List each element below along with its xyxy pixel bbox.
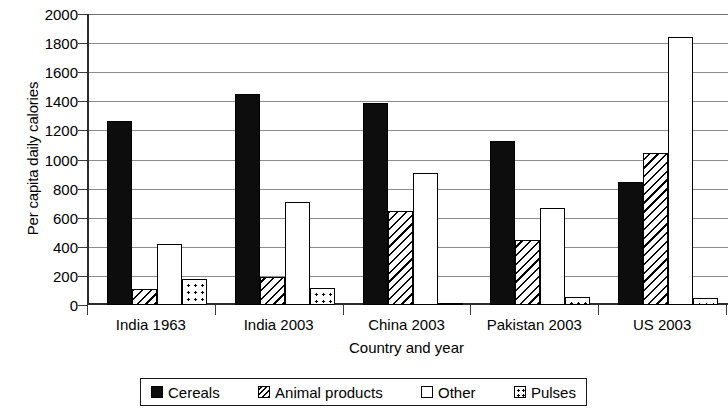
y-axis-tick-mark <box>78 247 87 248</box>
x-axis-tick-label: China 2003 <box>368 316 445 333</box>
bar-animal-products <box>260 277 285 305</box>
legend-label: Pulses <box>531 384 576 401</box>
y-axis-tick-mark <box>78 305 87 306</box>
y-axis-tick-label: 1800 <box>22 36 78 51</box>
y-axis-tick-label: 800 <box>22 181 78 196</box>
legend-label: Animal products <box>275 384 383 401</box>
y-axis-tick-mark <box>78 101 87 102</box>
y-axis-tick-mark <box>78 276 87 277</box>
bar-group <box>600 14 728 305</box>
x-axis-tick-mark <box>87 305 88 315</box>
bar-other <box>413 173 438 305</box>
bar-group <box>89 14 217 305</box>
y-axis-tick-label: 0 <box>22 298 78 313</box>
bar-animal-products <box>515 240 540 305</box>
bar-group <box>345 14 473 305</box>
legend-item-animal-products: Animal products <box>258 384 383 401</box>
y-axis-tick-mark <box>78 14 87 15</box>
bar-group <box>472 14 600 305</box>
legend-swatch-icon <box>421 386 433 398</box>
chart-legend: CerealsAnimal productsOtherPulses <box>140 378 587 406</box>
bar-cereals <box>107 121 132 305</box>
legend-label: Other <box>438 384 476 401</box>
bar-animal-products <box>388 211 413 305</box>
bar-pulses <box>438 303 463 305</box>
bar-other <box>668 37 693 305</box>
bar-other <box>540 208 565 305</box>
bar-pulses <box>565 297 590 305</box>
y-axis-tick-mark <box>78 43 87 44</box>
bar-cereals <box>235 94 260 305</box>
bar-cereals <box>490 141 515 305</box>
y-axis-tick-label: 600 <box>22 210 78 225</box>
y-axis-tick-label: 1400 <box>22 94 78 109</box>
bar-pulses <box>182 279 207 305</box>
legend-item-other: Other <box>421 384 476 401</box>
y-axis-tick-mark <box>78 160 87 161</box>
y-axis-tick-mark <box>78 189 87 190</box>
x-axis-tick-label: India 2003 <box>244 316 314 333</box>
x-axis-tick-mark <box>726 305 727 315</box>
y-axis-tick-label: 1600 <box>22 65 78 80</box>
x-axis-tick-label: US 2003 <box>633 316 691 333</box>
y-axis-tick-labels: 0200400600800100012001400160018002000 <box>22 0 78 320</box>
x-axis-tick-mark <box>215 305 216 315</box>
x-axis-tick-label: Pakistan 2003 <box>487 316 582 333</box>
bar-animal-products <box>643 153 668 305</box>
bar-pulses <box>693 298 718 305</box>
y-axis-tick-mark <box>78 72 87 73</box>
bar-other <box>157 244 182 305</box>
legend-swatch-icon <box>151 386 163 398</box>
y-axis-tick-label: 1000 <box>22 152 78 167</box>
y-axis-tick-label: 1200 <box>22 123 78 138</box>
x-axis-tick-label: India 1963 <box>116 316 186 333</box>
x-axis-tick-mark <box>470 305 471 315</box>
y-axis-tick-mark <box>78 130 87 131</box>
legend-swatch-icon <box>258 386 270 398</box>
bar-cereals <box>618 182 643 305</box>
bar-group <box>217 14 345 305</box>
plot-area <box>87 14 726 305</box>
bar-cereals <box>363 103 388 305</box>
legend-swatch-icon <box>514 386 526 398</box>
bar-other <box>285 202 310 305</box>
y-axis-tick-label: 400 <box>22 239 78 254</box>
legend-item-pulses: Pulses <box>514 384 576 401</box>
y-axis-tick-label: 2000 <box>22 7 78 22</box>
x-axis-tick-mark <box>343 305 344 315</box>
x-axis-title: Country and year <box>87 339 726 356</box>
y-axis-tick-mark <box>78 218 87 219</box>
bar-pulses <box>310 288 335 305</box>
y-axis-tick-label: 200 <box>22 268 78 283</box>
x-axis-tick-mark <box>598 305 599 315</box>
legend-label: Cereals <box>168 384 220 401</box>
legend-item-cereals: Cereals <box>151 384 220 401</box>
bar-animal-products <box>132 289 157 305</box>
